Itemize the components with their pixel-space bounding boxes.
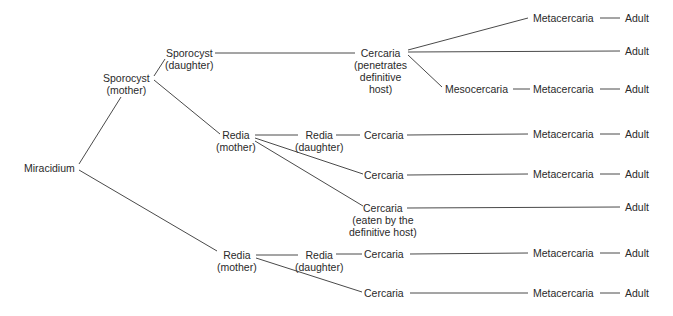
edge-miracidium-sporocyst [79,97,121,164]
node-label: Adult [625,247,649,259]
node-sporocyst-mother: Sporocyst (mother) [103,72,150,96]
node-cercaria-2: Cercaria [364,129,404,141]
node-label: Cercaria [364,129,404,141]
node-cercaria-penetrates: Cercaria (penetrates definitive host) [354,47,407,95]
node-label: Metacercaria [533,12,594,24]
node-cercaria-5: Cercaria [364,287,404,299]
node-cercaria-eaten: Cercaria (eaten by the definitive host) [349,202,417,238]
node-cercaria-4: Cercaria [364,248,404,260]
edge-cercaria-adult2 [408,51,620,52]
node-metacercaria-6: Metacercaria [533,287,594,299]
node-sublabel: (daughter) [295,141,343,153]
node-label: Adult [625,12,649,24]
node-label: Metacercaria [533,168,594,180]
node-label: Cercaria [364,248,404,260]
edge-spor-mother-daughter [154,59,165,76]
node-sublabel: (mother) [217,261,257,273]
node-sublabel: definitive host) [349,226,417,238]
node-label: Cercaria [364,287,404,299]
node-label: Adult [625,83,649,95]
node-metacercaria-4: Metacercaria [533,168,594,180]
node-adult-2: Adult [625,45,649,57]
node-sublabel: (mother) [103,84,150,96]
node-sublabel: (daughter) [165,59,213,71]
node-sporocyst-daughter: Sporocyst (daughter) [165,47,213,71]
edge-cercaria-eaten-adult6 [407,207,620,208]
node-sublabel: definitive [354,71,407,83]
edge-cercaria-metacercaria1 [408,18,528,50]
node-metacercaria-1: Metacercaria [533,12,594,24]
node-label: Adult [625,45,649,57]
node-label: Adult [625,287,649,299]
node-metacercaria-5: Metacercaria [533,247,594,259]
node-label: Cercaria [349,202,417,214]
node-label: Cercaria [354,47,407,59]
node-label: Redia [216,129,256,141]
edge-cercaria2-metacercaria3 [407,134,528,135]
node-adult-4: Adult [625,128,649,140]
edge-miracidium-redia2 [79,170,217,251]
node-label: Redia [295,249,343,261]
node-label: Miracidium [24,162,75,174]
node-label: Metacercaria [533,128,594,140]
edge-cercaria3-metacercaria4 [407,174,528,175]
node-label: Metacercaria [533,247,594,259]
node-label: Mesocercaria [445,83,508,95]
node-label: Adult [625,168,649,180]
node-redia-daughter-1: Redia (daughter) [295,129,343,153]
node-label: Redia [295,129,343,141]
node-label: Sporocyst [103,72,150,84]
node-adult-7: Adult [625,247,649,259]
node-label: Adult [625,128,649,140]
edge-cercaria-mesocercaria [408,55,442,87]
node-label: Sporocyst [165,47,213,59]
node-sublabel: (eaten by the [349,214,417,226]
node-adult-6: Adult [625,201,649,213]
node-sublabel: (penetrates [354,59,407,71]
node-label: Adult [625,201,649,213]
node-label: Cercaria [364,169,404,181]
node-redia-daughter-2: Redia (daughter) [295,249,343,273]
node-miracidium: Miracidium [24,162,75,174]
node-adult-5: Adult [625,168,649,180]
node-redia-mother-1: Redia (mother) [216,129,256,153]
edge-cercaria4-metacercaria5 [410,253,528,254]
node-adult-3: Adult [625,83,649,95]
node-label: Redia [217,249,257,261]
node-redia-mother-2: Redia (mother) [217,249,257,273]
node-metacercaria-3: Metacercaria [533,128,594,140]
edge-spor-mother-redia1 [154,80,220,134]
node-sublabel: (mother) [216,141,256,153]
node-label: Metacercaria [533,83,594,95]
node-adult-8: Adult [625,287,649,299]
node-cercaria-3: Cercaria [364,169,404,181]
node-adult-1: Adult [625,12,649,24]
node-mesocercaria: Mesocercaria [445,83,508,95]
node-label: Metacercaria [533,287,594,299]
node-sublabel: host) [354,83,407,95]
node-metacercaria-2: Metacercaria [533,83,594,95]
node-sublabel: (daughter) [295,261,343,273]
